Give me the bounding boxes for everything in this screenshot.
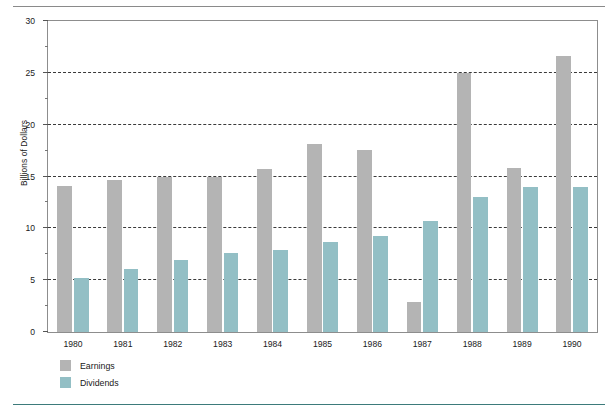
bar-group: 1988 (447, 21, 497, 332)
bar-dividends-1986 (373, 236, 388, 332)
y-axis-title: Billions of Dollars (19, 83, 29, 223)
y-tick-label: 15 (25, 172, 35, 182)
x-tick-label: 1990 (547, 339, 597, 349)
bar-dividends-1981 (124, 269, 139, 332)
bar-group: 1980 (48, 21, 98, 332)
y-tick-label: 10 (25, 223, 35, 233)
y-tick-label: 20 (25, 120, 35, 130)
x-tick-label: 1980 (48, 339, 98, 349)
x-tick-label: 1981 (98, 339, 148, 349)
x-tick-label: 1985 (298, 339, 348, 349)
bottom-divider-rule (13, 404, 605, 405)
bar-dividends-1988 (473, 197, 488, 332)
bar-earnings-1986 (357, 150, 372, 332)
top-divider-rule (13, 6, 605, 7)
bar-earnings-1980 (57, 186, 72, 332)
bar-group: 1989 (497, 21, 547, 332)
bar-dividends-1990 (573, 187, 588, 332)
legend-swatch-dividends (60, 377, 71, 388)
bar-earnings-1982 (157, 177, 172, 333)
x-tick-label: 1982 (148, 339, 198, 349)
bar-group: 1990 (547, 21, 597, 332)
bar-earnings-1988 (457, 73, 472, 332)
legend-item-dividends: Dividends (60, 374, 119, 391)
bar-group: 1985 (298, 21, 348, 332)
y-tick-label: 25 (25, 68, 35, 78)
legend-swatch-earnings (60, 360, 71, 371)
y-tick-label: 0 (30, 327, 35, 337)
x-tick-label: 1987 (397, 339, 447, 349)
bar-dividends-1984 (273, 250, 288, 332)
chart-legend: EarningsDividends (60, 357, 119, 391)
y-tick-label: 5 (30, 275, 35, 285)
bar-dividends-1987 (423, 221, 438, 332)
bar-earnings-1981 (107, 180, 122, 332)
bar-dividends-1985 (323, 242, 338, 332)
plot-area: 051015202530 198019811982198319841985198… (47, 20, 598, 333)
x-tick-label: 1983 (198, 339, 248, 349)
bar-dividends-1989 (523, 187, 538, 332)
x-tick-label: 1989 (497, 339, 547, 349)
legend-label: Earnings (80, 361, 115, 371)
legend-label: Dividends (80, 378, 119, 388)
bar-group: 1987 (397, 21, 447, 332)
x-tick-label: 1988 (447, 339, 497, 349)
chart-figure: Billions of Dollars 051015202530 1980198… (0, 0, 613, 417)
y-tick-label: 30 (25, 16, 35, 26)
bar-earnings-1990 (556, 56, 571, 332)
bar-earnings-1984 (257, 169, 272, 332)
bar-group: 1981 (98, 21, 148, 332)
bar-earnings-1989 (507, 168, 522, 332)
x-tick-label: 1986 (347, 339, 397, 349)
bar-dividends-1983 (224, 253, 239, 332)
bar-group: 1983 (198, 21, 248, 332)
bar-earnings-1985 (307, 144, 322, 332)
bar-group: 1984 (248, 21, 298, 332)
bar-dividends-1982 (174, 260, 189, 332)
bar-earnings-1983 (207, 177, 222, 333)
bar-earnings-1987 (407, 302, 422, 332)
bar-group: 1986 (347, 21, 397, 332)
bar-group: 1982 (148, 21, 198, 332)
x-tick-label: 1984 (248, 339, 298, 349)
bar-dividends-1980 (74, 278, 89, 332)
legend-item-earnings: Earnings (60, 357, 119, 374)
